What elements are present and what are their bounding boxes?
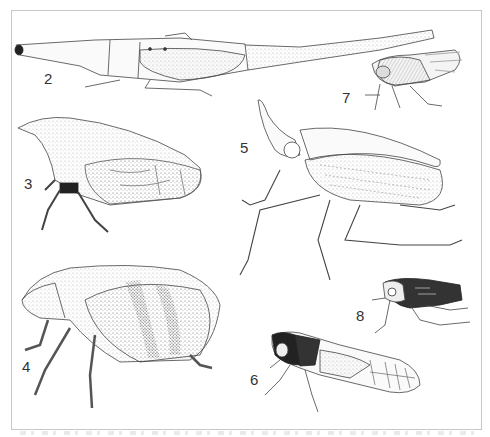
- figure-2-insect: [15, 30, 434, 96]
- figure-label-5: 5: [240, 140, 248, 155]
- figure-label-8: 8: [356, 308, 364, 323]
- figure-label-6: 6: [250, 372, 258, 387]
- bleed-through-text: [20, 431, 480, 435]
- figure-label-4: 4: [22, 359, 30, 374]
- figure-6-insect: [265, 332, 420, 412]
- insect-illustrations: [0, 0, 490, 437]
- figure-3-insect: [18, 117, 201, 232]
- figure-label-3: 3: [24, 176, 32, 191]
- figure-4-insect: [22, 265, 220, 408]
- figure-7-insect: [365, 50, 462, 110]
- figure-label-7: 7: [342, 90, 350, 105]
- figure-label-2: 2: [44, 71, 52, 86]
- figure-5-insect: [240, 100, 462, 280]
- figure-8-insect: [372, 278, 470, 333]
